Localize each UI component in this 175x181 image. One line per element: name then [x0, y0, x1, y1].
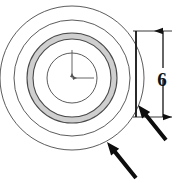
leader-arrow-outer-diameter [107, 142, 138, 179]
dimension-value-label: 6 [157, 69, 167, 90]
drawing-canvas: 6 [0, 0, 175, 181]
technical-drawing-figure: 6 [0, 0, 175, 181]
